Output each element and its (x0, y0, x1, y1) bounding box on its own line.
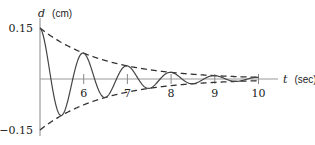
y-axis-tick-labels: 0.15−0.15 (0, 22, 33, 137)
oscillation-curve (40, 28, 259, 116)
x-tick-label: 9 (211, 87, 218, 100)
upper-envelope-curve (40, 28, 259, 77)
x-tick-label: 10 (252, 87, 266, 100)
x-tick-label: 6 (80, 87, 87, 100)
y-tick-label: 0.15 (9, 22, 34, 35)
y-axis-label: d (cm) (38, 3, 72, 20)
x-axis-label: t (sec) (283, 69, 315, 86)
y-tick-label: −0.15 (0, 124, 33, 137)
x-tick-label: 8 (168, 87, 175, 100)
x-tick-label: 7 (124, 87, 131, 100)
damped-oscillation-chart: 678910 0.15−0.15 d (cm) t (sec) (0, 0, 315, 145)
